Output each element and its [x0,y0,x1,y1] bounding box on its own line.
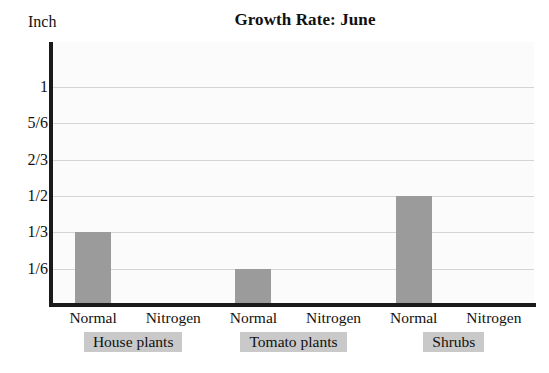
x-axis-group-labels: House plantsTomato plantsShrubs [53,331,540,357]
gridline [53,232,534,233]
group-label-text: Tomato plants [240,332,346,352]
gridline [53,196,534,197]
plot-area [53,42,534,305]
column-label-nitrogen: Nitrogen [133,308,213,328]
column-label-normal: Normal [213,308,293,328]
growth-rate-bar-chart: Growth Rate: June Inch 15/62/31/21/31/6 … [0,0,549,373]
column-label-nitrogen: Nitrogen [454,308,534,328]
column-label-normal: Normal [374,308,454,328]
bar [235,269,271,305]
gridline [53,87,534,88]
y-axis-tick-label: 1 [2,79,48,95]
x-axis-line [49,303,536,307]
gridline [53,160,534,161]
x-axis-column-labels: NormalNitrogenNormalNitrogenNormalNitrog… [53,308,540,330]
bar [396,196,432,305]
group-label-text: House plants [84,332,183,352]
y-axis-tick-label: 1/6 [2,261,48,277]
gridline [53,123,534,124]
group-label-house-plants: House plants [53,331,213,353]
y-axis-line [49,42,53,307]
column-label-nitrogen: Nitrogen [294,308,374,328]
group-label-shrubs: Shrubs [374,331,534,353]
bar [75,232,111,305]
column-label-normal: Normal [53,308,133,328]
y-axis-tick-label: 1/3 [2,224,48,240]
y-axis-tick-labels: 15/62/31/21/31/6 [0,0,48,373]
group-label-tomato-plants: Tomato plants [213,331,373,353]
y-axis-tick-label: 1/2 [2,188,48,204]
y-axis-tick-label: 5/6 [2,115,48,131]
group-label-text: Shrubs [423,332,484,352]
gridline [53,269,534,270]
chart-title: Growth Rate: June [160,10,450,30]
y-axis-tick-label: 2/3 [2,152,48,168]
